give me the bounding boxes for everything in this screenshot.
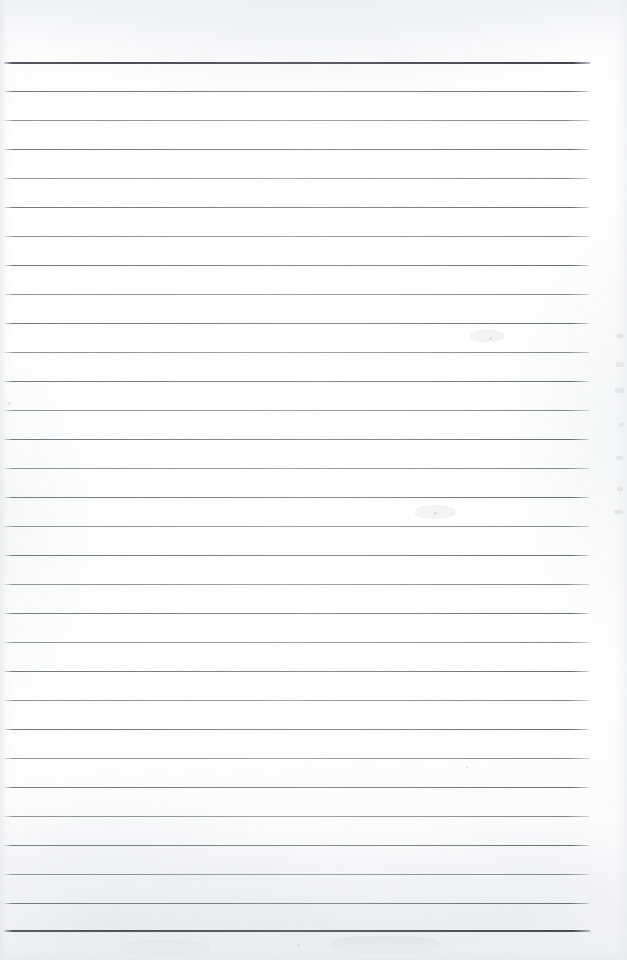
scanned-page: Blank Ruled Notebook Page xyxy=(0,0,627,960)
ruled-line-ink xyxy=(4,700,589,701)
ruled-line xyxy=(4,120,589,121)
ruled-line-ink xyxy=(4,613,589,614)
ruled-line xyxy=(4,178,589,179)
ruled-line xyxy=(4,845,589,846)
ruled-line xyxy=(4,816,589,817)
ruled-line xyxy=(4,671,589,672)
ruled-line-ink xyxy=(4,497,589,498)
ruled-line-ink xyxy=(4,903,589,904)
ruled-line xyxy=(4,352,589,353)
ruled-line-ink xyxy=(4,294,589,295)
ruled-line xyxy=(4,758,589,759)
ruled-line-ink xyxy=(4,930,590,932)
ruled-line-ink xyxy=(4,874,589,875)
ruled-line xyxy=(4,439,589,440)
ruled-line-ink xyxy=(4,323,589,324)
ruled-line-ink xyxy=(4,729,589,730)
ruled-line-ink xyxy=(4,265,589,266)
ruled-line xyxy=(4,642,589,643)
ruled-line xyxy=(4,207,589,208)
ruled-line-ink xyxy=(4,62,590,64)
ruled-line-ink xyxy=(4,439,589,440)
ruled-line-ink xyxy=(4,236,589,237)
ruled-line xyxy=(4,930,590,932)
ruled-line xyxy=(4,613,589,614)
ruled-line xyxy=(4,381,589,382)
ruled-line xyxy=(4,410,589,411)
ruled-line xyxy=(4,265,589,266)
ruled-line-ink xyxy=(4,845,589,846)
ruled-line xyxy=(4,729,589,730)
ruled-line-ink xyxy=(4,526,589,527)
ruled-line-ink xyxy=(4,671,589,672)
ruled-line-ink xyxy=(4,381,589,382)
ruled-line-ink xyxy=(4,642,589,643)
ruled-line-ink xyxy=(4,120,589,121)
ruled-line-ink xyxy=(4,352,589,353)
ruled-line xyxy=(4,526,589,527)
ruled-line-ink xyxy=(4,555,589,556)
ruled-line-ink xyxy=(4,584,589,585)
ruled-line xyxy=(4,555,589,556)
ruled-line xyxy=(4,91,589,92)
ruled-line-layer xyxy=(0,0,627,960)
ruled-line-ink xyxy=(4,91,589,92)
ruled-line xyxy=(4,468,589,469)
ruled-line xyxy=(4,903,589,904)
ruled-line xyxy=(4,700,589,701)
ruled-line xyxy=(4,294,589,295)
ruled-line-ink xyxy=(4,207,589,208)
ruled-line xyxy=(4,787,589,788)
ruled-line xyxy=(4,874,589,875)
ruled-line-ink xyxy=(4,410,589,411)
ruled-line xyxy=(4,497,589,498)
ruled-line-ink xyxy=(4,816,589,817)
ruled-line xyxy=(4,323,589,324)
ruled-line xyxy=(4,149,589,150)
ruled-line-ink xyxy=(4,468,589,469)
ruled-line xyxy=(4,584,589,585)
ruled-line-ink xyxy=(4,787,589,788)
ruled-line-ink xyxy=(4,178,589,179)
ruled-line-ink xyxy=(4,758,589,759)
ruled-line xyxy=(4,62,590,64)
ruled-line xyxy=(4,236,589,237)
ruled-line-ink xyxy=(4,149,589,150)
